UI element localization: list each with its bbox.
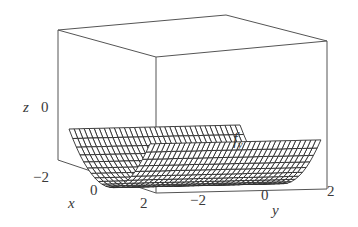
function-subscript: y [238,138,243,150]
x-tick-2: 2 [140,196,148,211]
y-tick-0: 0 [261,188,269,203]
y-tick-2: 2 [327,184,335,199]
z-tick-0: 0 [41,100,49,115]
x-tick-neg2: −2 [33,170,49,185]
y-axis-label: y [272,203,279,218]
y-tick-neg2: −2 [190,193,206,208]
wireframe-mesh [69,125,321,188]
x-axis-label: x [68,196,75,211]
function-label: fy [233,130,243,150]
z-axis-label: z [23,100,29,115]
surface-plot [0,0,358,227]
x-tick-0: 0 [90,183,98,198]
